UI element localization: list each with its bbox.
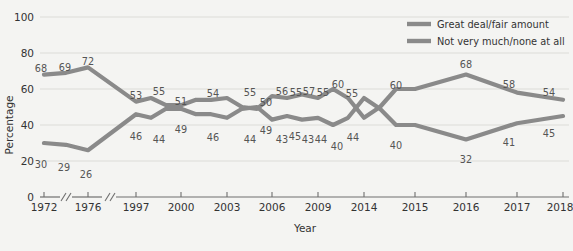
x-tick-label: 2003 (214, 201, 241, 213)
data-point-label: 46 (207, 132, 219, 143)
y-tick-label: 100 (14, 11, 34, 23)
data-point-label: 41 (503, 137, 515, 148)
x-tick-label: 2000 (168, 201, 195, 213)
data-point-label: 29 (58, 162, 70, 173)
data-point-label: 69 (59, 62, 71, 73)
y-tick-label: 60 (21, 83, 34, 95)
x-axis-ticks: 1972 1976 1997 2000 2003 2006 2009 2014 … (31, 201, 573, 213)
data-point-label: 43 (276, 134, 288, 145)
legend-label-great-deal: Great deal/fair amount (437, 19, 549, 30)
data-point-label: 44 (153, 134, 165, 145)
data-point-label: 54 (207, 88, 219, 99)
x-tick-label: 2009 (305, 201, 332, 213)
y-tick-label: 20 (21, 155, 34, 167)
line-chart: 100 80 60 40 20 0 Percentage (0, 0, 573, 251)
data-point-label: 60 (390, 80, 402, 91)
data-point-label: 43 (302, 134, 314, 145)
data-point-label: 45 (289, 131, 301, 142)
data-point-label: 44 (244, 134, 256, 145)
data-point-label: 40 (331, 141, 343, 152)
data-point-label: 58 (503, 79, 515, 90)
data-point-label: 49 (175, 124, 187, 135)
x-tick-label: 1997 (123, 201, 150, 213)
y-axis-title: Percentage (3, 95, 15, 154)
data-point-label: 55 (244, 87, 256, 98)
chart-container: 100 80 60 40 20 0 Percentage (0, 0, 573, 251)
x-tick-label: 2014 (351, 201, 378, 213)
data-point-label: 32 (460, 154, 472, 165)
legend-label-not-very-much: Not very much/none at all (437, 36, 565, 47)
data-point-label: 40 (390, 140, 402, 151)
y-axis-ticks: 100 80 60 40 20 0 (14, 11, 34, 203)
x-axis (40, 192, 569, 201)
x-tick-label: 2017 (504, 201, 531, 213)
data-point-label: 55 (317, 87, 329, 98)
data-labels-top: 68697253555154555056555755605560685854 (35, 56, 555, 108)
data-point-label: 30 (35, 159, 47, 170)
x-tick-label: 2018 (547, 201, 573, 213)
data-point-label: 72 (82, 56, 94, 67)
data-point-label: 68 (35, 63, 47, 74)
y-tick-label: 80 (21, 47, 34, 59)
x-tick-label: 2016 (453, 201, 480, 213)
x-tick-label: 1972 (31, 201, 58, 213)
data-point-label: 68 (460, 59, 472, 70)
data-point-label: 44 (315, 134, 327, 145)
data-point-label: 55 (290, 87, 302, 98)
data-point-label: 44 (347, 132, 359, 143)
data-point-label: 53 (130, 90, 142, 101)
data-point-label: 55 (346, 88, 358, 99)
data-point-label: 45 (543, 128, 555, 139)
data-point-label: 51 (175, 96, 187, 107)
x-tick-label: 1976 (75, 201, 102, 213)
y-tick-label: 40 (21, 119, 34, 131)
data-point-label: 56 (276, 86, 288, 97)
x-tick-label: 2015 (402, 201, 429, 213)
data-point-label: 46 (130, 131, 142, 142)
data-point-label: 54 (543, 87, 555, 98)
data-point-label: 26 (80, 169, 92, 180)
data-point-label: 55 (153, 86, 165, 97)
data-point-label: 60 (332, 79, 344, 90)
legend: Great deal/fair amount Not very much/non… (407, 19, 565, 47)
x-tick-label: 2006 (259, 201, 286, 213)
x-axis-title: Year (293, 222, 317, 234)
data-point-label: 50 (260, 97, 272, 108)
data-point-label: 49 (260, 125, 272, 136)
data-point-label: 57 (303, 86, 315, 97)
